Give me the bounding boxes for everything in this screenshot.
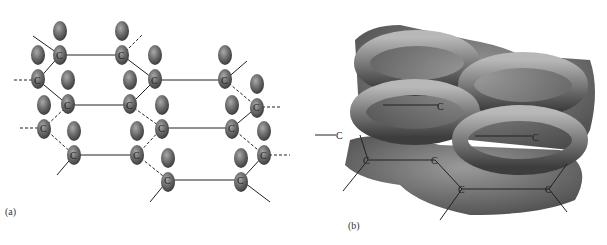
svg-text:C: C: [126, 100, 133, 111]
svg-text:C: C: [228, 123, 235, 134]
panel-a-diagram: CC CCC CCC CCC CCC CC: [0, 0, 607, 245]
svg-text:C: C: [260, 150, 267, 161]
svg-text:C: C: [221, 75, 228, 86]
svg-text:C: C: [458, 184, 465, 195]
figure: CC CCC CCC CCC CCC CC: [0, 0, 607, 245]
svg-text:C: C: [64, 100, 71, 111]
svg-text:C: C: [437, 101, 444, 112]
svg-text:C: C: [532, 132, 539, 143]
svg-text:C: C: [431, 155, 438, 166]
svg-text:C: C: [336, 130, 343, 141]
svg-text:C: C: [363, 155, 370, 166]
svg-text:C: C: [133, 150, 140, 161]
panel-b-label: (b): [348, 220, 360, 231]
panel-a-label: (a): [5, 206, 16, 217]
svg-text:C: C: [253, 102, 260, 113]
svg-text:C: C: [545, 184, 552, 195]
svg-text:C: C: [118, 50, 125, 61]
svg-text:C: C: [40, 123, 47, 134]
svg-text:C: C: [70, 150, 77, 161]
svg-text:C: C: [164, 175, 171, 186]
panel-b-diagram: C C C C C C C: [315, 25, 595, 220]
svg-text:C: C: [34, 75, 41, 86]
svg-text:C: C: [151, 75, 158, 86]
svg-text:C: C: [56, 50, 63, 61]
svg-text:C: C: [237, 175, 244, 186]
svg-text:C: C: [158, 123, 165, 134]
